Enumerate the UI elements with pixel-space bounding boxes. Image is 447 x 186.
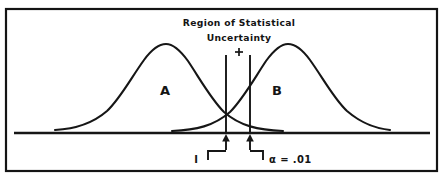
statistical-uncertainty-figure: Region of Statistical Uncertainty A B [0, 0, 447, 186]
figure-root: Region of Statistical Uncertainty A B [0, 0, 447, 186]
arrow-up-left-icon [222, 134, 230, 150]
curve-a-label: A [160, 83, 170, 98]
type-one-error-label: I [194, 154, 198, 165]
curve-b-label: B [272, 83, 282, 98]
figure-title-line-1: Region of Statistical [183, 17, 296, 28]
leader-line-alpha [250, 151, 263, 160]
arrow-up-right-icon [246, 134, 254, 150]
figure-title-line-2: Uncertainty [207, 32, 272, 43]
leader-line-type-one-error [208, 151, 226, 160]
plus-marker-icon [235, 48, 243, 56]
alpha-level-label: α = .01 [269, 154, 312, 165]
